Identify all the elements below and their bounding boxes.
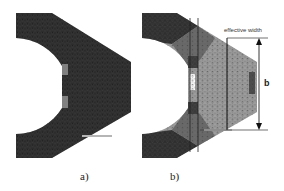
panel-a: a) [0,0,142,183]
mesh-overlay [140,0,284,165]
arrow-head-down-icon [256,123,262,130]
stress-patch-upper [62,64,68,75]
caption-b: b) [170,170,180,183]
effective-width-label: effective width [224,27,262,33]
panel-b: effective width b b) [140,0,284,183]
watermark-text [82,135,112,137]
caption-a: a) [80,170,89,183]
arrow-head-up-icon [256,38,262,45]
mesh-overlay [0,0,142,165]
stress-patch-lower [62,96,68,108]
dimension-b-label: b [264,78,270,88]
figure: a) effective width b b) [0,0,284,191]
